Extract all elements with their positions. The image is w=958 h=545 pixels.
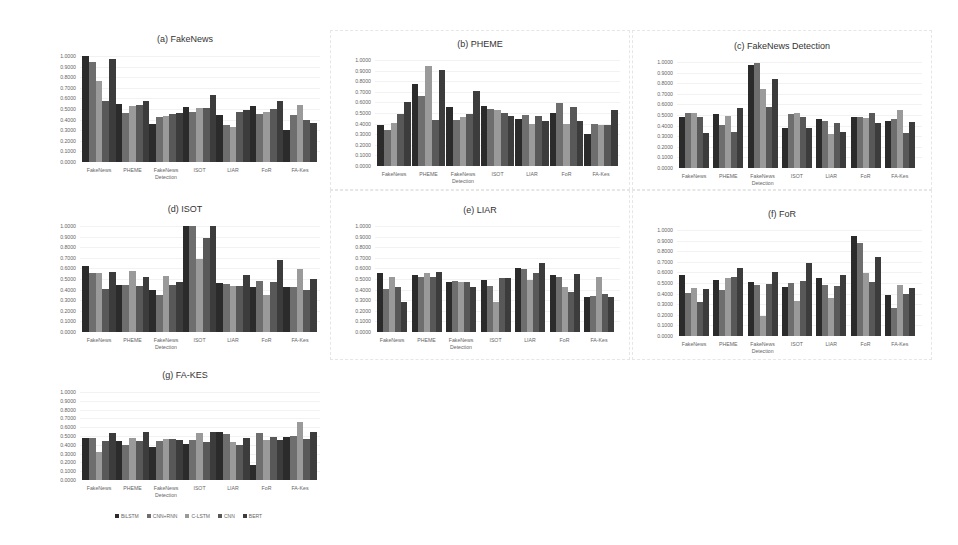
chart-title: (f) FoR: [633, 209, 931, 219]
bar-cnn-rnn: [256, 281, 263, 332]
bar-group: [149, 392, 183, 480]
y-tick-label: 0.1000: [657, 154, 673, 160]
bar-bilstm: [116, 104, 123, 162]
bar-cnn-rnn: [122, 285, 129, 332]
y-tick-label: 0.8000: [60, 407, 76, 413]
bar-cnn: [102, 101, 109, 162]
bar-group: [885, 62, 915, 168]
y-tick-label: 0.2000: [60, 138, 76, 144]
x-tick-label: PHEME: [123, 337, 141, 344]
bar-cnn: [466, 114, 473, 166]
y-tick-label: 0.3000: [657, 133, 673, 139]
bar-cnn-rnn: [189, 112, 196, 162]
bar-group: [183, 56, 217, 162]
x-tick-label: FakeNews: [682, 341, 707, 348]
y-axis: 0.00000.10000.20000.30000.40000.50000.60…: [40, 226, 76, 332]
bar-bert: [703, 133, 709, 168]
x-tick-label: FA-Kes: [592, 171, 609, 178]
legend-swatch-icon: [218, 514, 222, 518]
y-tick-label: 1.0000: [60, 53, 76, 59]
bar-bert: [840, 275, 846, 336]
bar-cnn-rnn: [487, 109, 494, 166]
bar-group: [885, 230, 915, 336]
x-tick-label: ISOT: [489, 337, 501, 344]
x-tick-label: LIAR: [227, 167, 239, 174]
bar-bert: [577, 121, 584, 166]
bar-group: [116, 56, 150, 162]
y-tick-label: 0.5000: [60, 276, 76, 282]
y-tick-label: 0.6000: [60, 424, 76, 430]
y-tick-label: 0.1000: [355, 152, 371, 158]
bar-cnn-rnn: [290, 436, 297, 480]
bar-cnn: [303, 439, 310, 480]
x-tick-label: LIAR: [526, 171, 538, 178]
legend-item: CNN: [218, 513, 235, 519]
y-tick-label: 0.8000: [355, 244, 371, 250]
bar-cnn-rnn: [223, 434, 230, 480]
bar-bert: [737, 268, 743, 336]
bar-bert: [404, 102, 411, 166]
chart-title: (c) FakeNews Detection: [633, 41, 931, 51]
bar-bilstm: [183, 226, 190, 332]
y-tick-label: 0.5000: [60, 433, 76, 439]
plot-area: [80, 56, 320, 162]
bar-cnn-rnn: [256, 433, 263, 480]
bar-group: [446, 60, 480, 166]
bar-group: [216, 392, 250, 480]
bar-bert: [840, 132, 846, 168]
y-tick-label: 0.0000: [60, 159, 76, 165]
bar-bert: [608, 297, 614, 332]
legend: BiLSTMCNN+RNNC-LSTMCNNBERT: [115, 513, 262, 519]
bar-cnn: [203, 108, 210, 162]
x-tick-label: FA-Kes: [291, 167, 308, 174]
bar-bert: [806, 263, 812, 336]
bar-cnn: [270, 282, 277, 332]
x-tick-label: LIAR: [227, 337, 239, 344]
x-tick-label: PHEME: [419, 171, 437, 178]
y-tick-label: 0.6000: [355, 265, 371, 271]
bar-cnn: [303, 290, 310, 332]
y-tick-label: 0.0000: [355, 329, 371, 335]
y-tick-label: 0.3000: [60, 297, 76, 303]
bar-group: [183, 226, 217, 332]
bar-bert: [310, 123, 317, 162]
y-tick-label: 0.9000: [60, 398, 76, 404]
y-tick-label: 0.7000: [355, 255, 371, 261]
y-tick-label: 0.3000: [355, 131, 371, 137]
y-tick-label: 0.4000: [657, 123, 673, 129]
bar-bert: [703, 289, 709, 336]
x-tick-label: FoR: [262, 337, 272, 344]
y-tick-label: 0.9000: [60, 64, 76, 70]
y-tick-label: 0.0000: [60, 477, 76, 483]
bar-group: [679, 230, 709, 336]
bar-c-lstm: [163, 439, 170, 480]
bar-cnn: [535, 116, 542, 166]
y-tick-label: 0.8000: [355, 78, 371, 84]
bar-group: [412, 60, 446, 166]
y-tick-label: 0.7000: [657, 91, 673, 97]
y-tick-label: 1.0000: [60, 389, 76, 395]
bar-cnn: [169, 285, 176, 332]
bar-bilstm: [116, 285, 123, 332]
x-tick-label: ISOT: [491, 171, 503, 178]
bar-c-lstm: [494, 110, 501, 166]
bar-group: [515, 226, 545, 332]
bar-group: [550, 60, 584, 166]
bar-bert: [542, 121, 549, 166]
x-tick-label: FoR: [861, 173, 871, 180]
legend-item: BERT: [243, 513, 262, 519]
bar-bert: [310, 432, 317, 480]
bar-bilstm: [183, 107, 190, 162]
x-tick-label: FakeNews Detection: [451, 171, 476, 185]
bar-c-lstm: [129, 438, 136, 480]
bar-group: [250, 392, 284, 480]
bar-cnn-rnn: [223, 284, 230, 332]
x-tick-label: FakeNews Detection: [750, 173, 775, 187]
y-tick-label: 0.4000: [355, 287, 371, 293]
y-tick-label: 0.0000: [657, 165, 673, 171]
bar-bilstm: [250, 465, 257, 480]
bar-cnn-rnn: [522, 115, 529, 166]
y-tick-label: 1.0000: [657, 227, 673, 233]
x-tick-label: FakeNews: [382, 171, 407, 178]
plot-area: [375, 226, 620, 332]
